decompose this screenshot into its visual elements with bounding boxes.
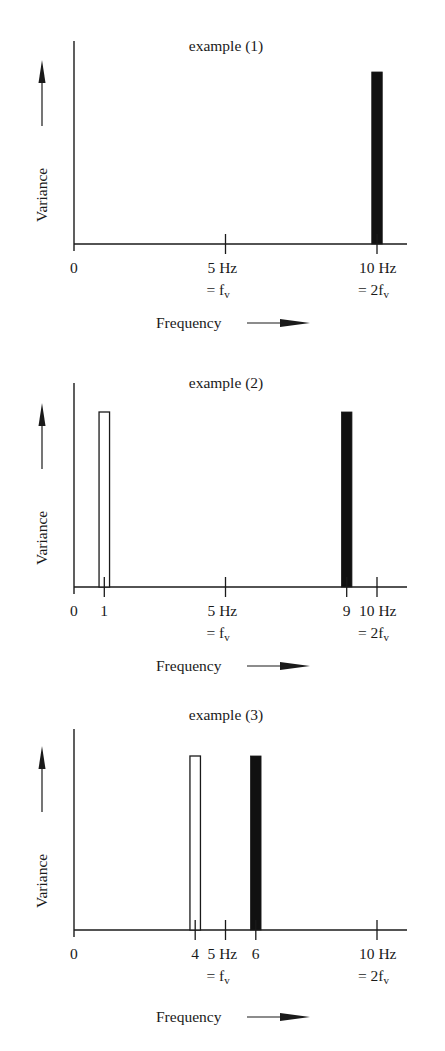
- up-arrow-icon: [39, 60, 46, 83]
- x-axis-label: Frequency: [156, 314, 222, 331]
- y-axis-label: Variance: [33, 168, 50, 222]
- bar-filled: [251, 756, 261, 930]
- x-tick-label: 4: [191, 945, 199, 962]
- x-tick-sublabel: = 2fv: [358, 624, 390, 643]
- x-tick-label: 1: [100, 602, 108, 619]
- y-axis-label: Variance: [33, 854, 50, 908]
- x-tick-label: 10 Hz: [359, 602, 397, 619]
- bar-filled: [341, 412, 352, 587]
- x-tick-label: 6: [252, 945, 260, 962]
- x-tick-sublabel: = fv: [207, 281, 231, 300]
- x-tick-sublabel: = 2fv: [358, 967, 390, 986]
- chart-title: example (2): [189, 374, 263, 392]
- x-axis-label: Frequency: [156, 657, 222, 674]
- up-arrow-icon: [39, 746, 46, 769]
- x-tick-sublabel: = 2fv: [358, 281, 390, 300]
- bar-open: [190, 756, 201, 930]
- x-tick-sublabel: = fv: [207, 967, 231, 986]
- x-tick-sublabel: = fv: [207, 624, 231, 643]
- x-tick-label: 9: [343, 602, 351, 619]
- y-axis-label: Variance: [33, 511, 50, 565]
- right-arrow-icon: [280, 1013, 310, 1021]
- up-arrow-icon: [39, 403, 46, 426]
- right-arrow-icon: [280, 662, 310, 670]
- chart-panel-2: example (2)15 Hz= fv910 Hz= 2fv0Variance…: [33, 374, 407, 674]
- chart-title: example (3): [189, 706, 263, 724]
- chart-panel-3: example (3)45 Hz= fv610 Hz= 2fv0Variance…: [33, 706, 407, 1025]
- x-axis-label: Frequency: [156, 1008, 222, 1025]
- x-tick-label: 10 Hz: [359, 259, 397, 276]
- variance-spectrum-figure: example (1)5 Hz= fv10 Hz= 2fv0VarianceFr…: [0, 0, 445, 1051]
- x-tick-label: 5 Hz: [208, 945, 238, 962]
- chart-title: example (1): [189, 37, 263, 55]
- chart-panel-1: example (1)5 Hz= fv10 Hz= 2fv0VarianceFr…: [33, 37, 407, 331]
- right-arrow-icon: [280, 319, 310, 327]
- x-origin-label: 0: [70, 602, 78, 619]
- bar-open: [99, 412, 110, 587]
- x-tick-label: 5 Hz: [208, 259, 238, 276]
- bar-filled: [372, 72, 383, 244]
- x-origin-label: 0: [70, 259, 78, 276]
- x-tick-label: 10 Hz: [359, 945, 397, 962]
- x-origin-label: 0: [70, 945, 78, 962]
- x-tick-label: 5 Hz: [208, 602, 238, 619]
